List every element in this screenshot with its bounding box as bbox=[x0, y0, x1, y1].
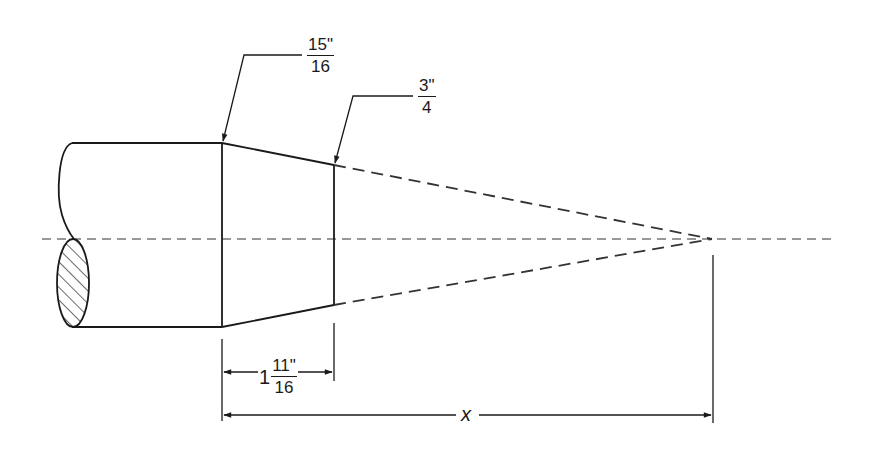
taper-length-whole: 1 bbox=[259, 366, 270, 388]
extension-lines bbox=[222, 255, 713, 423]
taper-length-denominator: 16 bbox=[275, 377, 294, 396]
large-diameter-denominator: 16 bbox=[311, 56, 330, 75]
leader-small-diameter bbox=[335, 96, 413, 163]
taper-extension-lines bbox=[334, 165, 712, 305]
apex-distance-label: x bbox=[461, 404, 471, 424]
large-diameter-label: 15" 16 bbox=[307, 36, 334, 75]
hatched-section bbox=[57, 239, 89, 327]
small-diameter-denominator: 4 bbox=[422, 97, 431, 116]
taper-section bbox=[222, 143, 334, 327]
taper-length-numerator: 11" bbox=[271, 357, 297, 377]
large-diameter-numerator: 15" bbox=[307, 36, 334, 56]
leader-large-diameter bbox=[223, 55, 302, 141]
taper-length-label: 1 11" 16 bbox=[259, 357, 297, 396]
small-diameter-numerator: 3" bbox=[418, 77, 436, 97]
tapered-shaft-diagram bbox=[0, 0, 876, 452]
small-diameter-label: 3" 4 bbox=[418, 77, 436, 116]
